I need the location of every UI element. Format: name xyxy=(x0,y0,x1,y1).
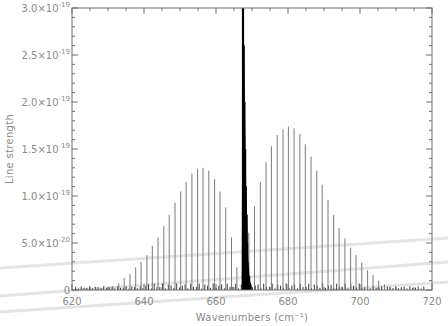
x-tick-label: 720 xyxy=(422,296,441,307)
y-axis-title: Line strength xyxy=(4,114,15,184)
y-tick-label: 2.0×10-19 xyxy=(22,95,70,108)
y-tick-label: 5.0×10-20 xyxy=(22,236,70,249)
y-tick-label: 2.5×10-19 xyxy=(22,48,70,61)
spectral-lines xyxy=(76,8,424,290)
x-tick-label: 700 xyxy=(350,296,369,307)
y-tick-labels: 05.0×10-201.0×10-191.5×10-192.0×10-192.5… xyxy=(22,1,70,296)
y-tick-label: 1.5×10-19 xyxy=(22,142,70,155)
x-tick-label: 640 xyxy=(134,296,153,307)
axis-ticks xyxy=(72,8,432,290)
y-tick-label: 3.0×10-19 xyxy=(22,1,70,14)
x-tick-label: 660 xyxy=(206,296,225,307)
x-axis-title: Wavenumbers (cm⁻¹) xyxy=(196,312,309,323)
line-strength-chart: 620640660680700720 05.0×10-201.0×10-191.… xyxy=(0,0,448,326)
y-tick-label: 1.0×10-19 xyxy=(22,189,70,202)
plot-frame xyxy=(72,8,432,290)
x-tick-label: 620 xyxy=(62,296,81,307)
y-tick-label: 0 xyxy=(64,285,70,296)
q-branch-peak xyxy=(242,8,252,290)
x-tick-label: 680 xyxy=(278,296,297,307)
